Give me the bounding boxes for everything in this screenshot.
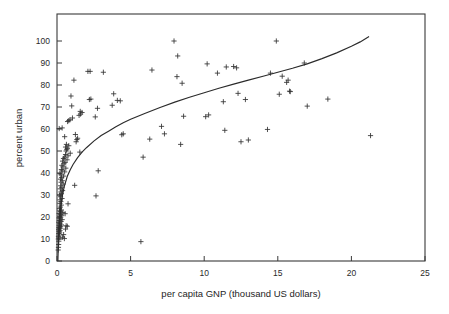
y-tick-label: 90 [41, 58, 51, 68]
scatter-plot-figure: 0102030405060708090100 0510152025 per ca… [0, 0, 449, 314]
y-tick-label: 100 [36, 36, 50, 46]
y-tick-label: 30 [41, 190, 51, 200]
x-tick-label: 15 [273, 268, 283, 278]
y-tick-label: 40 [41, 168, 51, 178]
chart-background [0, 0, 449, 314]
x-tick-label: 25 [420, 268, 430, 278]
y-axis-title: percent urban [13, 109, 24, 168]
y-tick-label: 50 [41, 146, 51, 156]
y-tick-label: 10 [41, 234, 51, 244]
y-tick-label: 70 [41, 102, 51, 112]
y-tick-label: 80 [41, 80, 51, 90]
y-tick-label: 0 [45, 256, 50, 266]
chart-canvas: 0102030405060708090100 0510152025 per ca… [0, 0, 449, 314]
x-tick-label: 10 [199, 268, 209, 278]
x-axis-title: per capita GNP (thousand US dollars) [161, 288, 320, 299]
y-tick-label: 60 [41, 124, 51, 134]
x-tick-label: 5 [128, 268, 133, 278]
x-tick-label: 0 [55, 268, 60, 278]
x-tick-label: 20 [347, 268, 357, 278]
y-tick-label: 20 [41, 212, 51, 222]
